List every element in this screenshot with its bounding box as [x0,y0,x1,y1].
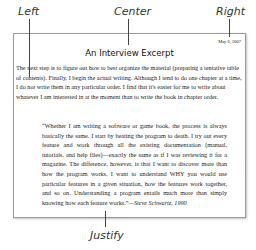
justify-leader-line [105,211,106,227]
callout-right-label: Right [216,5,245,18]
quote-text: “Whether I am writing a software or game… [42,122,227,206]
date-right-aligned: May 6, 2007 [218,39,241,44]
quote-citation: —Steve Schwartz, 1990 [128,199,186,206]
callout-center-label: Center [114,5,151,18]
callout-left-label: Left [18,5,39,18]
center-leader-line [128,19,129,45]
right-leader-line [229,19,230,37]
document-page: May 6, 2007 An Interview Excerpt The nex… [13,33,246,218]
quote-justified: “Whether I am writing a software or game… [42,121,227,207]
paragraph-left-aligned: The next step is to figure out how to be… [16,63,242,101]
callout-justify-label: Justify [90,229,124,242]
left-leader-line [29,19,30,77]
title-centered: An Interview Excerpt [14,48,245,58]
